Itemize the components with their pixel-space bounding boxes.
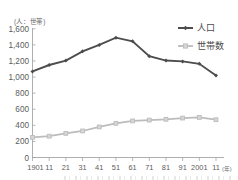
legend-marker (183, 26, 187, 30)
series-population (31, 36, 219, 78)
y-axis-tick-label: 0 (24, 154, 29, 163)
x-axis-tick-label: 71 (145, 163, 153, 172)
legend-label: 人口 (197, 23, 215, 33)
x-axis-tick-label: 2001 (191, 163, 207, 172)
x-axis-tick-label: 11 (212, 163, 220, 172)
series-line (33, 117, 217, 137)
data-point-marker (197, 116, 201, 120)
chart-legend: 人口世帯数 (178, 23, 224, 51)
legend-marker (183, 44, 187, 48)
data-point-marker (47, 134, 51, 138)
y-axis-tick-label: 1,600 (9, 25, 30, 34)
y-axis-tick-label: 600 (15, 105, 29, 114)
series-households (31, 116, 218, 140)
x-axis-tick-marks (33, 158, 217, 162)
legend-item-population[interactable]: 人口 (178, 23, 215, 33)
x-axis-tick-label: 11 (45, 163, 53, 172)
population-household-line-chart: (人：世帯) 02004006008001,0001,2001,4001,600… (0, 0, 238, 180)
data-point-marker (164, 117, 168, 121)
x-axis-tick-label: 51 (112, 163, 120, 172)
data-point-marker (81, 129, 85, 133)
y-axis-tick-label: 1,400 (9, 41, 30, 50)
data-point-marker (164, 59, 168, 63)
legend-label: 世帯数 (197, 40, 224, 51)
x-axis-tick-label: 31 (78, 163, 86, 172)
chart-plot-area: 02004006008001,0001,2001,4001,600 190111… (0, 0, 238, 180)
series-line (33, 38, 217, 76)
x-axis-tick-label: 41 (95, 163, 103, 172)
x-axis-tick-label: 21 (62, 163, 70, 172)
data-point-marker (214, 118, 218, 122)
y-axis-tick-labels: 02004006008001,0001,2001,4001,600 (9, 25, 30, 163)
x-axis-tick-label: 61 (128, 163, 136, 172)
y-axis-tick-label: 800 (15, 89, 29, 98)
x-axis-tick-label: 1901 (27, 163, 43, 172)
y-axis-tick-label: 1,200 (9, 57, 30, 66)
data-point-marker (31, 135, 35, 139)
y-axis-tick-label: 400 (15, 121, 29, 130)
x-axis-tick-label: 81 (162, 163, 170, 172)
x-axis-tick-label: 91 (179, 163, 187, 172)
y-axis-tick-label: 200 (15, 137, 29, 146)
data-point-marker (114, 121, 118, 125)
x-axis-unit-label: (年) (222, 165, 232, 173)
data-series-group (31, 36, 219, 140)
data-point-marker (64, 131, 68, 135)
x-axis-tick-labels: 1901112131415161718191200111 (27, 163, 220, 172)
data-point-marker (181, 59, 185, 63)
data-point-marker (147, 118, 151, 122)
data-point-marker (131, 119, 135, 123)
data-point-marker (181, 116, 185, 120)
data-point-marker (97, 125, 101, 129)
y-axis-tick-label: 1,000 (9, 73, 30, 82)
legend-item-households[interactable]: 世帯数 (178, 40, 224, 51)
